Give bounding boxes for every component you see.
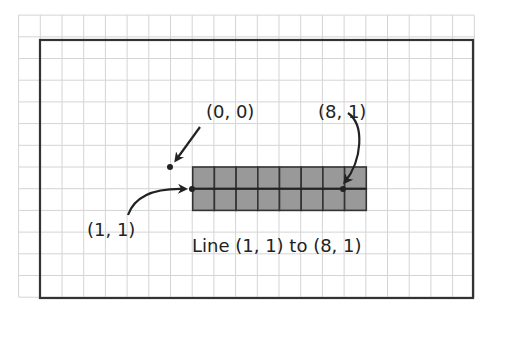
pixel-cell	[301, 167, 323, 189]
pixel-cell	[345, 189, 367, 211]
origin-arrow-icon	[176, 127, 200, 160]
diagram-canvas: (0, 0) (8, 1) (1, 1) Line (1, 1) to (8, …	[0, 0, 510, 338]
start-arrow-icon	[128, 189, 185, 215]
start-point	[189, 186, 195, 192]
pixel-cell	[214, 167, 236, 189]
pixel-cell	[193, 167, 215, 189]
caption: Line (1, 1) to (8, 1)	[192, 235, 362, 256]
pixel-cell	[258, 167, 280, 189]
origin-label: (0, 0)	[206, 101, 254, 122]
pixel-cell	[301, 189, 323, 211]
end-point	[340, 186, 346, 192]
pixel-cell	[236, 167, 258, 189]
end-label: (8, 1)	[318, 101, 366, 122]
pixel-cell	[280, 189, 302, 211]
origin-point	[167, 164, 173, 170]
pixel-cell	[236, 189, 258, 211]
pixel-cell	[193, 189, 215, 211]
pixel-cell	[214, 189, 236, 211]
pixel-cell	[280, 167, 302, 189]
pixel-cell	[323, 189, 345, 211]
pixel-cell	[323, 167, 345, 189]
start-label: (1, 1)	[87, 219, 135, 240]
pixel-cell	[258, 189, 280, 211]
